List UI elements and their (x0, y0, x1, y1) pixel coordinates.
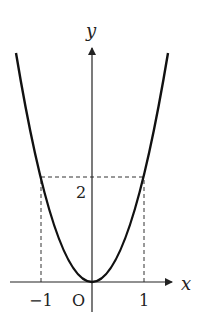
tick-label-x-neg1: −1 (29, 291, 53, 310)
origin-label: O (72, 291, 85, 310)
x-axis-label: x (181, 273, 191, 294)
parabola-diagram: y x 2 −1 O 1 (0, 0, 202, 329)
tick-label-y-2: 2 (76, 183, 86, 202)
y-axis-label: y (85, 20, 97, 41)
tick-label-x-pos1: 1 (139, 291, 149, 310)
